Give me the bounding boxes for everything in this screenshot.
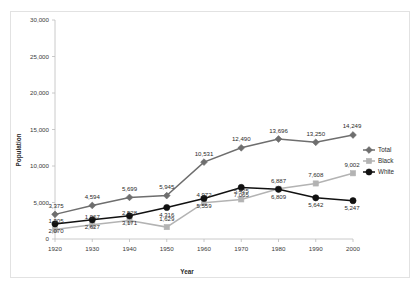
data-label-white-1940: 3,171	[122, 219, 138, 226]
data-label-total-1970: 12,490	[232, 135, 251, 142]
y-axis-title: Population	[15, 133, 23, 166]
legend-item-black[interactable]: Black	[378, 157, 394, 164]
x-tick-label: 1980	[272, 245, 286, 252]
x-axis: 192019301940195019601970198019902000	[48, 239, 360, 252]
y-tick-label: 5,000	[34, 199, 50, 206]
data-point-black-2000	[350, 171, 355, 176]
data-point-total-1970	[238, 144, 245, 151]
x-tick-label: 1930	[85, 245, 99, 252]
data-label-white-1980: 6,809	[271, 193, 287, 200]
y-tick-label: 10,000	[30, 162, 49, 169]
legend-swatch-marker-black	[366, 158, 371, 163]
x-tick-label: 1970	[234, 245, 248, 252]
chart-legend: TotalBlackWhite	[363, 146, 395, 175]
x-tick-label: 1950	[160, 245, 174, 252]
y-tick-label: 0	[46, 235, 50, 242]
data-label-black-1940: 2,528	[122, 209, 138, 216]
data-point-white-1990	[313, 195, 319, 201]
data-point-total-1930	[89, 202, 96, 209]
data-label-black-1920: 1,305	[48, 217, 64, 224]
data-label-white-1930: 2,627	[85, 223, 101, 230]
data-label-black-2000: 9,002	[344, 161, 360, 168]
y-tick-label: 25,000	[30, 53, 49, 60]
data-label-total-1950: 5,945	[159, 183, 175, 190]
chart-container: 05,00010,00015,00020,00025,00030,000 192…	[10, 11, 410, 278]
data-point-white-2000	[350, 198, 356, 204]
chart-header-strip	[0, 0, 420, 9]
x-tick-label: 1990	[309, 245, 323, 252]
data-label-white-2000: 5,247	[344, 204, 360, 211]
data-label-white-1920: 2,070	[48, 227, 64, 234]
data-point-total-2000	[350, 132, 357, 139]
x-tick-label: 1960	[197, 245, 211, 252]
x-tick-label: 1920	[48, 245, 62, 252]
data-label-black-1990: 7,608	[308, 171, 324, 178]
data-label-black-1980: 6,887	[271, 177, 287, 184]
data-point-white-1980	[275, 186, 281, 192]
data-label-total-2000: 14,249	[343, 122, 362, 129]
legend-swatch-marker-total	[366, 147, 373, 154]
x-tick-label: 1940	[123, 245, 137, 252]
y-tick-label: 15,000	[30, 126, 49, 133]
data-point-white-1950	[164, 204, 170, 210]
data-label-total-1980: 13,696	[269, 127, 288, 134]
data-label-black-1930: 1,967	[85, 213, 101, 220]
x-tick-label: 2000	[346, 245, 360, 252]
data-label-white-1950: 4,316	[159, 211, 175, 218]
data-point-total-1990	[312, 139, 319, 146]
data-label-white-1990: 5,642	[308, 201, 324, 208]
x-axis-title: Year	[180, 268, 194, 275]
data-point-black-1950	[164, 225, 169, 230]
legend-item-total[interactable]: Total	[378, 146, 391, 153]
data-point-total-1940	[126, 194, 133, 201]
data-point-black-1990	[313, 181, 318, 186]
data-label-total-1930: 4,594	[85, 193, 101, 200]
line-chart: 05,00010,00015,00020,00025,00030,000 192…	[11, 12, 409, 277]
legend-item-white[interactable]: White	[378, 168, 395, 175]
legend-swatch-marker-white	[366, 169, 372, 175]
data-point-total-1980	[275, 136, 282, 143]
y-tick-label: 30,000	[30, 16, 49, 23]
data-label-white-1960: 5,559	[196, 202, 212, 209]
data-label-white-1970: 7,065	[234, 191, 250, 198]
data-label-black-1960: 4,972	[196, 191, 212, 198]
data-labels-layer: 3,3754,5945,6995,94510,53112,49013,69613…	[48, 122, 362, 234]
data-label-total-1990: 13,250	[306, 130, 325, 137]
data-label-total-1960: 10,531	[195, 150, 214, 157]
data-label-total-1940: 5,699	[122, 185, 138, 192]
data-label-total-1920: 3,375	[48, 202, 64, 209]
y-tick-label: 20,000	[30, 89, 49, 96]
